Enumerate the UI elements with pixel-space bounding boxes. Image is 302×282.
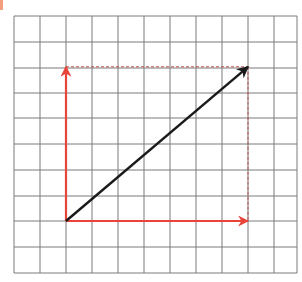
vector-diagram	[0, 0, 302, 282]
